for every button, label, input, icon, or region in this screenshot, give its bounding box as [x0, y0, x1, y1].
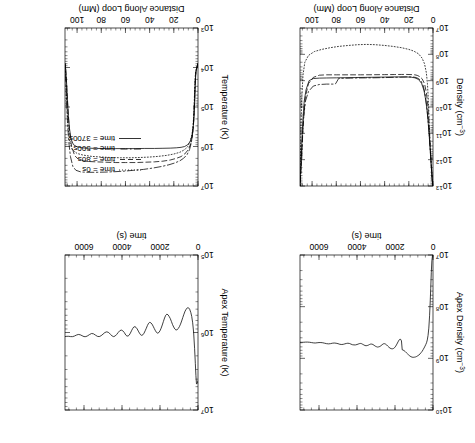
x-tick-label: 6000: [309, 242, 328, 252]
legend-label-2: time = 500s: [73, 144, 115, 153]
x-axis-title: time (s): [117, 231, 147, 241]
figure-svg: 02000400060001071081091010time (s)Apex D…: [0, 0, 475, 443]
y-axis-title: Apex Density (cm−3): [455, 292, 466, 373]
x-tick-label: 40: [380, 15, 390, 25]
x-axis-title: time (s): [352, 231, 382, 241]
legend-label-3: time = 3700s: [69, 134, 115, 143]
x-tick-label: 20: [169, 15, 179, 25]
x-tick-label: 0: [195, 15, 200, 25]
x-tick-label: 60: [355, 15, 365, 25]
x-axis-title: Distance Along Loop (Mm): [313, 4, 419, 14]
x-tick-label: 0: [430, 242, 435, 252]
x-tick-label: 0: [195, 242, 200, 252]
x-tick-label: 4000: [347, 242, 366, 252]
x-tick-label: 60: [120, 15, 130, 25]
x-tick-label: 100: [305, 15, 319, 25]
legend-label-0: time = 0s: [82, 165, 115, 174]
x-tick-label: 80: [331, 15, 341, 25]
figure-background: [0, 0, 475, 443]
x-tick-label: 6000: [74, 242, 93, 252]
x-tick-label: 4000: [112, 242, 131, 252]
x-tick-label: 80: [96, 15, 106, 25]
x-tick-label: 100: [70, 15, 84, 25]
y-axis-title: Temperature (K): [220, 74, 230, 139]
y-axis-title: Apex Temperature (K): [220, 289, 230, 377]
x-tick-label: 40: [145, 15, 155, 25]
x-tick-label: 2000: [150, 242, 169, 252]
x-tick-label: 2000: [385, 242, 404, 252]
x-axis-title: Distance Along Loop (Mm): [78, 4, 184, 14]
x-tick-label: 0: [430, 15, 435, 25]
legend-label-1: time = 80s: [78, 155, 115, 164]
figure-root: 02000400060001071081091010time (s)Apex D…: [0, 0, 475, 443]
x-tick-label: 20: [404, 15, 414, 25]
